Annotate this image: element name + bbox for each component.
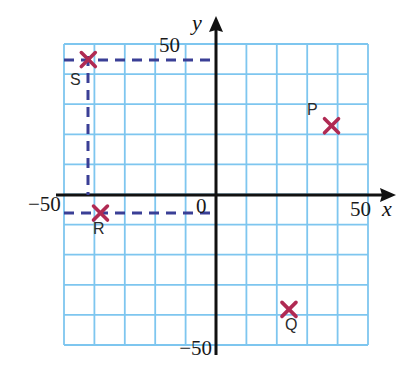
point-marker-p xyxy=(325,119,339,133)
coordinate-graph: P Q R S 50 −50 −50 50 0 y x xyxy=(0,0,410,368)
point-label-s: S xyxy=(70,71,81,88)
origin-label: 0 xyxy=(196,194,207,218)
point-label-r: R xyxy=(93,220,105,237)
x-axis-left-tick-label: −50 xyxy=(28,192,61,216)
x-axis-variable-label: x xyxy=(381,196,392,221)
y-axis-arrowhead xyxy=(209,16,223,32)
y-axis-top-tick-label: 50 xyxy=(159,33,180,57)
x-axis-right-tick-label: 50 xyxy=(350,197,371,221)
y-axis-bottom-tick-label: −50 xyxy=(179,336,212,360)
y-axis-variable-label: y xyxy=(190,10,202,35)
graph-canvas: P Q R S 50 −50 −50 50 0 y x xyxy=(0,0,410,368)
point-markers xyxy=(81,53,338,317)
point-label-p: P xyxy=(307,101,318,118)
axis-lines xyxy=(56,16,396,355)
point-label-q: Q xyxy=(285,316,297,333)
